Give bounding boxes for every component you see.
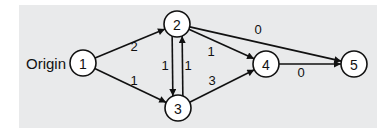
edge-weight-label: 1 — [184, 58, 191, 73]
node-1: 1 — [70, 50, 96, 76]
node-label: 5 — [350, 57, 358, 73]
edge-weight-label: 0 — [297, 65, 304, 80]
node-4: 4 — [253, 51, 279, 77]
edge-1-to-3: 1 — [95, 69, 167, 103]
edge-4-to-5: 0 — [279, 64, 341, 80]
edge-weight-label: 3 — [208, 73, 215, 88]
node-label: 1 — [79, 56, 87, 72]
node-5: 5 — [341, 51, 367, 77]
edge-weight-label: 1 — [161, 58, 168, 73]
edge-3-to-4: 3 — [190, 70, 255, 102]
edge-weight-label: 2 — [130, 39, 137, 54]
node-label: 3 — [174, 101, 182, 117]
node-label: 2 — [173, 17, 181, 33]
edge-2-to-3: 1 — [161, 36, 172, 96]
edge-1-to-2: 2 — [95, 29, 165, 58]
edge-weight-label: 1 — [207, 44, 214, 59]
origin-label: Origin — [26, 55, 66, 72]
node-3: 3 — [165, 95, 191, 121]
edge-weight-label: 0 — [254, 22, 261, 37]
node-2: 2 — [164, 11, 190, 37]
node-label: 4 — [262, 57, 270, 73]
edge-weight-label: 1 — [130, 73, 137, 88]
edge-3-to-2: 1 — [182, 36, 191, 96]
network-diagram: 21111030 12345 Origin — [0, 0, 391, 132]
